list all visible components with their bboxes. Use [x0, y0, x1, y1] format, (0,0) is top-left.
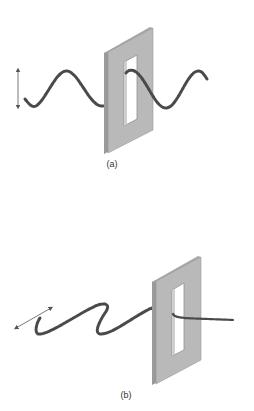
panel-b-label: (b): [121, 390, 132, 400]
panel-a-label: (a): [107, 159, 118, 169]
polarization-diagram: [0, 0, 254, 411]
wave-incoming: [36, 304, 152, 334]
slot-inner-edge: [172, 289, 175, 356]
wave-incoming: [25, 71, 103, 107]
panel-a: [18, 27, 207, 154]
horizontal-polarization-arrow: [16, 308, 51, 328]
panel-b: [16, 256, 233, 385]
board-edge: [152, 280, 156, 385]
board-edge: [104, 51, 108, 154]
